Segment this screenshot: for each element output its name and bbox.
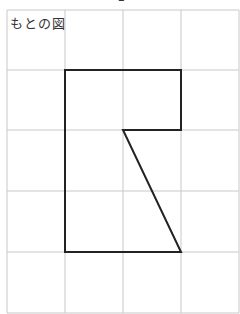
figure-label: もとの図: [10, 13, 66, 32]
grid-lines: [7, 10, 239, 313]
grid-figure: [0, 0, 240, 314]
